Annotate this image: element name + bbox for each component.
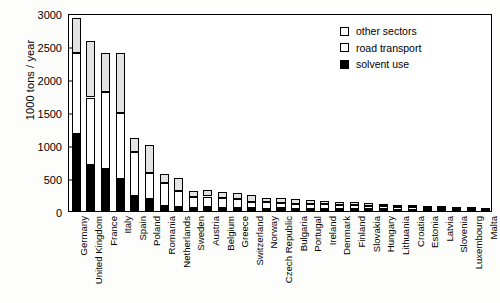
y-tick-label: 2500: [38, 43, 69, 54]
bar-segment-solvent-use: [160, 206, 169, 211]
bar-segment-other-sectors: [130, 138, 139, 151]
bar-segment-road-transport: [262, 202, 271, 208]
bar-segment-other-sectors: [145, 145, 154, 173]
bar-segment-other-sectors: [160, 174, 169, 183]
bar-segment-road-transport: [393, 207, 402, 210]
x-tick-label: Croatia: [416, 216, 426, 247]
bar-segment-other-sectors: [364, 203, 373, 206]
bar-segment-road-transport: [408, 207, 417, 210]
legend-swatch-icon: [340, 60, 349, 69]
chart-legend: other sectorsroad transportsolvent use: [340, 26, 421, 76]
x-tick-label: Ireland: [328, 216, 338, 245]
y-tick-label: 500: [44, 175, 69, 186]
bar-segment-other-sectors: [233, 193, 242, 199]
bar: [86, 41, 95, 211]
bar: [350, 202, 359, 211]
bar-segment-other-sectors: [86, 41, 95, 98]
x-tick-label: Estonia: [430, 216, 440, 248]
bar: [233, 193, 242, 211]
bar-segment-other-sectors: [408, 205, 417, 207]
x-tick-label: Portugal: [313, 216, 323, 252]
bar: [452, 208, 461, 211]
plot-area: 050010001500200025003000: [68, 14, 492, 212]
bar: [408, 206, 417, 211]
bar-segment-road-transport: [160, 183, 169, 206]
bar: [72, 18, 81, 211]
x-tick-label: Malta: [489, 216, 499, 239]
bar: [364, 203, 373, 211]
bar-segment-other-sectors: [335, 202, 344, 205]
bar-segment-road-transport: [218, 198, 227, 208]
bar: [393, 205, 402, 211]
x-tick-label: Hungary: [386, 216, 396, 252]
bar: [101, 53, 110, 211]
bar-segment-road-transport: [145, 173, 154, 199]
bar: [189, 191, 198, 211]
y-tick-label: 0: [56, 208, 69, 219]
bar: [481, 210, 490, 211]
legend-item: other sectors: [340, 26, 421, 37]
y-tick-label: 1500: [38, 109, 69, 120]
bar: [247, 195, 256, 211]
x-tick-label: Denmark: [342, 216, 352, 255]
x-tick-label: Slovenia: [459, 216, 469, 253]
legend-item: road transport: [340, 43, 421, 54]
bar-segment-road-transport: [423, 208, 432, 210]
bar-segment-road-transport: [364, 206, 373, 210]
x-tick-label: Luxembourg: [474, 216, 484, 269]
bar-segment-solvent-use: [189, 208, 198, 211]
bar-segment-other-sectors: [262, 198, 271, 202]
bar-segment-road-transport: [306, 204, 315, 209]
bar-segment-road-transport: [174, 191, 183, 208]
x-tick-label: Romania: [167, 216, 177, 254]
bar-segment-road-transport: [335, 205, 344, 210]
bar-segment-solvent-use: [233, 208, 242, 211]
bar-segment-road-transport: [203, 197, 212, 208]
bar: [306, 200, 315, 211]
bar: [203, 190, 212, 211]
bar-segment-solvent-use: [101, 169, 110, 211]
bar-segment-solvent-use: [86, 165, 95, 211]
bar-segment-road-transport: [276, 203, 285, 208]
bar-segment-other-sectors: [393, 205, 402, 207]
x-tick-label: Netherlands: [182, 216, 192, 268]
bar-segment-road-transport: [101, 92, 110, 169]
bar-segment-other-sectors: [437, 206, 446, 208]
bar: [130, 138, 139, 211]
bar-segment-solvent-use: [291, 209, 300, 211]
bar-segment-other-sectors: [218, 192, 227, 198]
bar-segment-other-sectors: [276, 198, 285, 204]
bar-segment-other-sectors: [189, 191, 198, 198]
x-tick-label: Austria: [211, 216, 221, 246]
bar-segment-road-transport: [72, 53, 81, 134]
bar-segment-road-transport: [189, 197, 198, 208]
bar-segment-solvent-use: [145, 199, 154, 211]
bar: [379, 204, 388, 211]
bar-segment-road-transport: [86, 98, 95, 166]
bar-segment-solvent-use: [72, 134, 81, 211]
bar: [423, 206, 432, 211]
bar-segment-other-sectors: [306, 200, 315, 204]
legend-label: solvent use: [356, 59, 409, 70]
bar: [437, 207, 446, 211]
bar-segment-road-transport: [379, 206, 388, 209]
bar-segment-other-sectors: [350, 202, 359, 205]
bar-segment-other-sectors: [320, 201, 329, 204]
bar-group: [69, 15, 491, 211]
x-tick-label: Belgium: [226, 216, 236, 251]
bar-segment-road-transport: [437, 208, 446, 210]
x-tick-label: Lithuania: [401, 216, 411, 255]
y-tick-label: 2000: [38, 76, 69, 87]
bar-segment-other-sectors: [203, 190, 212, 196]
x-tick-label: Switzerland: [255, 216, 265, 266]
x-tick-label: Greece: [240, 216, 250, 247]
bar: [116, 53, 125, 211]
bar-segment-solvent-use: [262, 209, 271, 211]
x-tick-label: Czech Republic: [284, 216, 294, 283]
x-tick-label: Latvia: [445, 216, 455, 242]
bar-segment-road-transport: [130, 152, 139, 197]
bar-segment-other-sectors: [379, 204, 388, 206]
bar: [276, 198, 285, 211]
bar: [145, 145, 154, 211]
bar-segment-other-sectors: [174, 178, 183, 190]
